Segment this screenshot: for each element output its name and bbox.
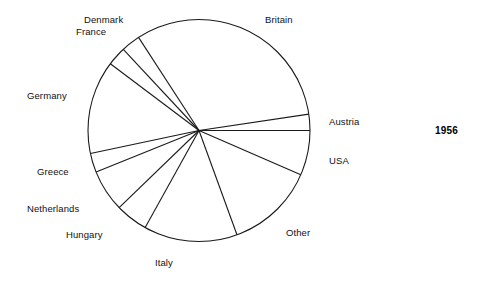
pie-slices-group (88, 20, 310, 242)
pie-chart-canvas (0, 0, 479, 286)
austria-label: Austria (329, 116, 359, 127)
pie-chart-figure: DenmarkFranceBritainGermanyAustriaUSAGre… (0, 0, 479, 286)
year-annotation: 1956 (435, 125, 458, 136)
usa-label: USA (329, 155, 349, 166)
greece-label: Greece (37, 166, 69, 177)
denmark-label: Denmark (84, 14, 123, 25)
italy-label: Italy (155, 257, 173, 268)
france-label: France (76, 26, 106, 37)
netherlands-label: Netherlands (27, 203, 79, 214)
germany-label: Germany (27, 90, 67, 101)
britain-label: Britain (265, 14, 293, 25)
other-label: Other (286, 227, 310, 238)
hungary-label: Hungary (66, 229, 103, 240)
